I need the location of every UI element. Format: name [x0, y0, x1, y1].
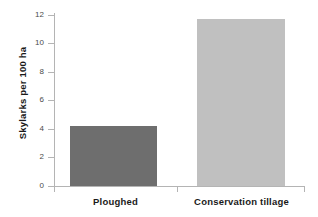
- x-divider-start: [54, 187, 55, 192]
- bar-ploughed: [70, 126, 157, 186]
- y-tick-label-4: 4: [22, 125, 44, 133]
- y-tick-label-2: 2: [22, 153, 44, 161]
- y-tick-label-8: 8: [22, 68, 44, 76]
- y-tick-label-6: 6: [22, 96, 44, 104]
- y-tick-label-0: 0: [22, 182, 44, 190]
- bar-chart: Skylarks per 100 ha 12 10 8 6 4 2 0 Plou…: [0, 0, 318, 217]
- plot-area: [54, 15, 305, 186]
- y-tick-label-10: 10: [22, 39, 44, 47]
- y-tick-label-12: 12: [22, 11, 44, 19]
- x-category-label-ploughed: Ploughed: [54, 196, 177, 208]
- x-category-label-conservation-tillage: Conservation tillage: [178, 196, 305, 208]
- x-divider-middle: [177, 187, 178, 192]
- x-axis-line: [54, 186, 305, 187]
- x-divider-end: [304, 187, 305, 192]
- bar-conservation-tillage: [197, 19, 285, 186]
